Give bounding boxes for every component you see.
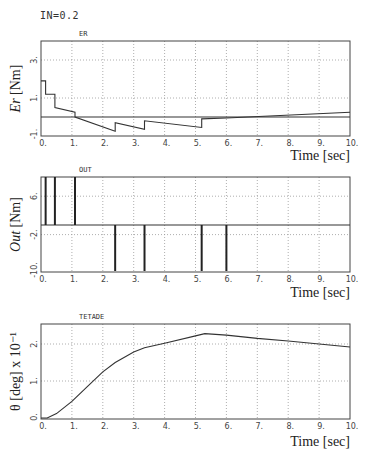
x-tick-label: 6. [225,275,233,284]
y-axis-label: Out [Nm] [8,197,23,252]
x-tick-label: 0. [39,139,47,148]
y-tick-label: 3. [30,56,39,64]
x-axis-label: Time [sec] [290,148,350,163]
plot-er: ER3.1.-1.0.1.2.3.4.5.6.7.8.9.10.Er [Nm]T… [8,30,358,163]
x-tick-label: 0. [39,275,47,284]
plot-title: OUT [79,166,92,174]
x-tick-label: 9. [317,422,325,431]
x-tick-label: 2. [101,275,109,284]
y-tick-label: -1. [30,129,39,140]
x-tick-label: 6. [225,139,233,148]
y-tick-label: 0. [30,413,39,421]
x-axis-label: Time [sec] [290,434,350,449]
x-tick-label: 4. [163,139,171,148]
x-tick-label: 7. [255,275,263,284]
y-axis-label: θ [deg] x 10⁻¹ [8,332,23,411]
x-tick-label: 8. [286,139,294,148]
y-tick-label: -2. [30,229,39,240]
x-tick-label: 5. [194,139,202,148]
x-tick-label: 4. [163,422,171,431]
x-axis-label: Time [sec] [290,285,350,300]
plot-title: ER [79,30,88,38]
y-tick-label: 2. [30,340,39,348]
x-tick-label: 2. [101,139,109,148]
x-tick-label: 1. [70,275,78,284]
x-tick-label: 1. [70,422,78,431]
chart-canvas: ER3.1.-1.0.1.2.3.4.5.6.7.8.9.10.Er [Nm]T… [0,0,371,458]
x-tick-label: 1. [70,139,78,148]
x-tick-label: 8. [286,422,294,431]
x-tick-label: 8. [286,275,294,284]
plot-title: TETADE [79,313,104,321]
x-tick-label: 5. [194,422,202,431]
x-tick-label: 7. [255,139,263,148]
x-tick-label: 10. [346,275,359,284]
y-tick-label: -10. [30,262,39,278]
data-curve [41,81,350,131]
plot-frame [41,324,350,419]
x-tick-label: 9. [317,275,325,284]
x-tick-label: 9. [317,139,325,148]
x-tick-label: 10. [346,139,359,148]
y-tick-label: 6. [30,192,39,200]
x-tick-label: 5. [194,275,202,284]
x-tick-label: 0. [39,422,47,431]
x-tick-label: 4. [163,275,171,284]
plot-tetade: TETADE2.1.0.0.1.2.3.4.5.6.7.8.9.10.θ [de… [8,313,358,449]
x-tick-label: 3. [132,275,140,284]
plot-out: OUT6.-2.-10.0.1.2.3.4.5.6.7.8.9.10.Out [… [8,166,358,300]
y-tick-label: 1. [30,377,39,385]
x-tick-label: 3. [132,139,140,148]
x-tick-label: 2. [101,422,109,431]
y-axis-label: Er [Nm] [8,65,23,114]
x-tick-label: 6. [225,422,233,431]
x-tick-label: 10. [346,422,359,431]
x-tick-label: 7. [255,422,263,431]
y-tick-label: 1. [30,94,39,102]
x-tick-label: 3. [132,422,140,431]
